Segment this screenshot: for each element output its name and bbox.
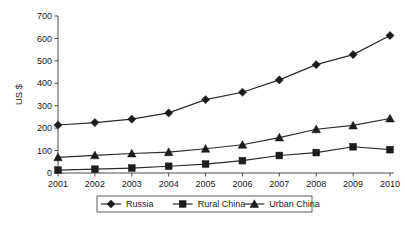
x-tick-label: 2001 <box>48 179 68 189</box>
x-tick-label: 2005 <box>196 179 216 189</box>
data-point-square <box>387 146 394 153</box>
data-point-square <box>165 163 172 170</box>
data-point-square <box>179 201 186 208</box>
y-axis: 0100200300400500600700 <box>37 11 58 178</box>
series-layer <box>54 31 395 173</box>
y-tick-label: 500 <box>37 56 52 66</box>
x-tick-label: 2010 <box>380 179 400 189</box>
x-tick-label: 2007 <box>269 179 289 189</box>
y-axis-title-text: US $ <box>13 83 24 105</box>
y-tick-label: 0 <box>47 168 52 178</box>
legend-label: Rural China <box>198 199 246 209</box>
y-tick-label: 100 <box>37 146 52 156</box>
data-point-diamond <box>386 31 394 39</box>
data-point-square <box>239 157 246 164</box>
series-rural-china <box>55 143 394 173</box>
data-point-diamond <box>312 61 320 69</box>
data-point-square <box>128 165 135 172</box>
y-tick-label: 600 <box>37 34 52 44</box>
data-point-square <box>276 152 283 159</box>
data-point-square <box>91 166 98 173</box>
data-point-square <box>350 143 357 150</box>
data-point-triangle <box>386 114 395 122</box>
data-point-square <box>202 161 209 168</box>
x-axis: 2001200220032004200520062007200820092010 <box>48 173 400 189</box>
series-line <box>58 118 390 157</box>
data-point-square <box>55 167 62 174</box>
x-tick-label: 2008 <box>306 179 326 189</box>
legend-label: Russia <box>126 199 154 209</box>
y-tick-label: 200 <box>37 123 52 133</box>
x-tick-label: 2006 <box>232 179 252 189</box>
x-tick-label: 2004 <box>159 179 179 189</box>
series-russia <box>54 31 394 129</box>
y-axis-title: US $ <box>13 83 24 105</box>
data-point-diamond <box>128 115 136 123</box>
y-tick-label: 700 <box>37 11 52 21</box>
chart-legend: RussiaRural ChinaUrban China <box>97 196 320 212</box>
x-tick-label: 2003 <box>122 179 142 189</box>
line-chart: 0100200300400500600700 20012002200320042… <box>0 0 405 229</box>
data-point-diamond <box>238 88 246 96</box>
chart-container: 0100200300400500600700 20012002200320042… <box>0 0 405 229</box>
x-tick-label: 2002 <box>85 179 105 189</box>
y-tick-label: 300 <box>37 101 52 111</box>
legend-label: Urban China <box>269 199 320 209</box>
data-point-diamond <box>275 76 283 84</box>
y-tick-label: 400 <box>37 78 52 88</box>
data-point-square <box>313 149 320 156</box>
data-point-diamond <box>201 96 209 104</box>
series-line <box>58 147 390 170</box>
x-tick-label: 2009 <box>343 179 363 189</box>
data-point-diamond <box>349 50 357 58</box>
data-point-diamond <box>165 109 173 117</box>
series-line <box>58 36 390 125</box>
data-point-diamond <box>91 118 99 126</box>
